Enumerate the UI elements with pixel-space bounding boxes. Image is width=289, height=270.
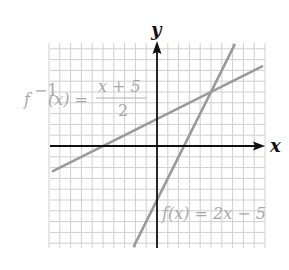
- x-axis-label: x: [269, 135, 281, 156]
- y-axis-label: y: [150, 19, 163, 40]
- inverse-numerator: x + 5: [98, 77, 141, 96]
- function-graph: y x f −1 (x) = x + 5 2 f(x) = 2x − 5: [0, 0, 289, 270]
- inverse-arg: (x) =: [48, 90, 88, 109]
- function-label: f(x) = 2x − 5: [161, 204, 266, 223]
- inverse-denominator: 2: [118, 101, 128, 120]
- inverse-f: f: [23, 90, 33, 109]
